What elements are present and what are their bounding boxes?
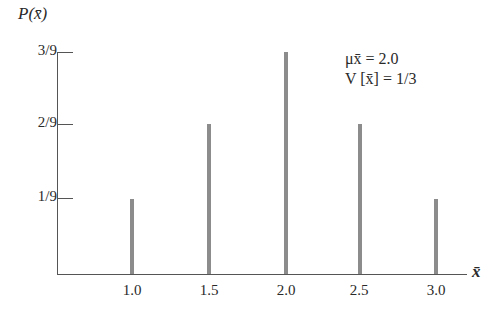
x-tick-label: 3.0 (416, 282, 456, 299)
y-tick-label: 1/9 (38, 188, 57, 205)
y-tick-label: 2/9 (38, 114, 57, 131)
y-tick-2-9 (57, 124, 73, 125)
bar-1-0 (130, 199, 134, 274)
bar-1-5 (207, 124, 211, 274)
x-tick-label: 1.0 (112, 282, 152, 299)
x-tick-label: 1.5 (189, 282, 229, 299)
annotation-variance: V [x̄] = 1/3 (345, 70, 416, 88)
x-axis-line (57, 274, 467, 275)
annotation-mean: μx̄ = 2.0 (345, 50, 399, 68)
x-tick-label: 2.0 (266, 282, 306, 299)
x-tick-label: 2.5 (339, 282, 379, 299)
x-axis-title: x̄ (472, 262, 481, 282)
bar-3-0 (434, 199, 438, 274)
y-tick-3-9 (57, 52, 73, 53)
y-tick-1-9 (57, 198, 73, 199)
y-tick-label: 3/9 (38, 42, 57, 59)
bar-2-5 (358, 124, 362, 274)
y-axis-line (57, 52, 58, 275)
y-axis-title: P(x̄) (18, 4, 47, 24)
bar-2-0 (284, 52, 288, 274)
